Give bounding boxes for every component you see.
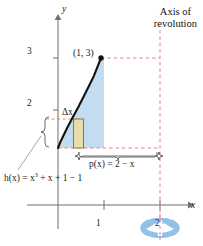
y-axis-arrow <box>55 14 62 20</box>
x-tick-label-1: 1 <box>96 218 101 229</box>
point-label: (1, 3) <box>73 48 94 59</box>
height-equation-label: h(x) = x3 + x + 1 − 1 <box>4 173 82 184</box>
height-equation-prefix: h(x) = x <box>4 173 35 183</box>
figure-canvas: Axis of revolution (1, 3) 3 2 1 2 y x Δx… <box>0 0 203 246</box>
height-leader-line <box>18 136 41 170</box>
height-equation-suffix: + x + 1 − 1 <box>38 173 83 183</box>
height-brace <box>41 117 49 147</box>
x-axis-label: x <box>191 200 195 211</box>
point-marker <box>98 55 103 60</box>
shell-rectangle <box>74 119 84 148</box>
diagram-svg <box>0 0 203 246</box>
axis-of-revolution-label: Axis of revolution <box>154 6 197 30</box>
y-tick-label-2: 2 <box>27 98 32 109</box>
axis-of-revolution-line1: Axis of <box>160 6 191 17</box>
y-tick-label-3: 3 <box>27 46 32 57</box>
axis-of-revolution-line2: revolution <box>154 18 197 29</box>
y-axis-label: y <box>62 4 66 15</box>
radius-equation-label: p(x) = 2 − x <box>89 159 135 170</box>
x-tick-label-2: 2 <box>155 218 160 229</box>
delta-x-label: Δx <box>62 107 73 118</box>
rotation-icon <box>143 214 177 240</box>
